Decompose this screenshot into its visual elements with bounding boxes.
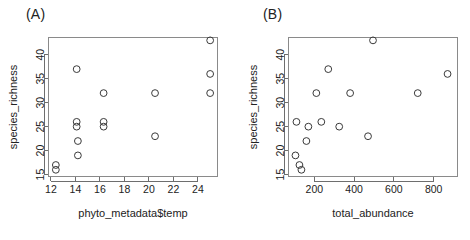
data-point bbox=[292, 152, 299, 159]
data-point bbox=[325, 66, 332, 73]
x-tick-label: 12 bbox=[45, 183, 57, 195]
data-point bbox=[73, 123, 80, 130]
data-point bbox=[74, 138, 81, 145]
data-point bbox=[318, 118, 325, 125]
data-point bbox=[52, 166, 59, 173]
data-point bbox=[347, 90, 354, 97]
panel-a-frame bbox=[49, 38, 218, 177]
panel-a-points bbox=[52, 37, 213, 173]
figure-container: (A) 152025303540 12141618202224 phyto_me… bbox=[0, 0, 470, 240]
data-point bbox=[73, 66, 80, 73]
panel-a-y-axis-title: species_richness bbox=[7, 64, 19, 149]
panel-a-y-axis: 152025303540 bbox=[34, 49, 48, 181]
y-tick-label: 35 bbox=[34, 73, 46, 85]
data-point bbox=[100, 90, 107, 97]
data-point bbox=[74, 152, 81, 159]
data-point bbox=[303, 138, 310, 145]
panel-b-y-axis-title: species_richness bbox=[247, 64, 259, 149]
panel-b-plot: 152025303540 200400600800 total_abundanc… bbox=[235, 0, 470, 240]
data-point bbox=[293, 118, 300, 125]
panel-a-plot: 152025303540 12141618202224 phyto_metada… bbox=[0, 0, 235, 240]
data-point bbox=[152, 133, 159, 140]
x-tick-label: 16 bbox=[94, 183, 106, 195]
y-tick-label: 25 bbox=[34, 121, 46, 133]
x-tick-label: 14 bbox=[70, 183, 82, 195]
x-tick-label: 18 bbox=[119, 183, 131, 195]
y-tick-label: 35 bbox=[274, 73, 286, 85]
data-point bbox=[313, 90, 320, 97]
y-tick-label: 40 bbox=[34, 49, 46, 61]
y-tick-label: 30 bbox=[274, 97, 286, 109]
y-tick-label: 20 bbox=[34, 145, 46, 157]
data-point bbox=[336, 123, 343, 130]
panel-b-x-axis: 200400600800 bbox=[306, 177, 443, 195]
panel-a-x-axis: 12141618202224 bbox=[45, 177, 204, 195]
y-tick-label: 15 bbox=[34, 169, 46, 181]
panel-b: (B) 152025303540 200400600800 total_abun… bbox=[235, 0, 470, 240]
y-tick-label: 25 bbox=[274, 121, 286, 133]
panel-b-points bbox=[292, 37, 451, 173]
data-point bbox=[414, 90, 421, 97]
data-point bbox=[305, 123, 312, 130]
data-point bbox=[207, 71, 214, 78]
x-tick-label: 600 bbox=[385, 183, 403, 195]
x-tick-label: 200 bbox=[306, 183, 324, 195]
panel-b-frame bbox=[289, 38, 458, 177]
panel-a: (A) 152025303540 12141618202224 phyto_me… bbox=[0, 0, 235, 240]
y-tick-label: 15 bbox=[274, 169, 286, 181]
data-point bbox=[444, 71, 451, 78]
data-point bbox=[152, 90, 159, 97]
x-tick-label: 400 bbox=[345, 183, 363, 195]
y-tick-label: 30 bbox=[34, 97, 46, 109]
x-tick-label: 800 bbox=[425, 183, 443, 195]
x-tick-label: 22 bbox=[168, 183, 180, 195]
panel-b-x-axis-title: total_abundance bbox=[332, 207, 413, 219]
data-point bbox=[100, 123, 107, 130]
panel-b-y-axis: 152025303540 bbox=[274, 49, 288, 181]
x-tick-label: 20 bbox=[143, 183, 155, 195]
y-tick-label: 40 bbox=[274, 49, 286, 61]
x-tick-label: 24 bbox=[192, 183, 204, 195]
data-point bbox=[365, 133, 372, 140]
panel-a-x-axis-title: phyto_metadata$temp bbox=[78, 207, 187, 219]
data-point bbox=[207, 90, 214, 97]
y-tick-label: 20 bbox=[274, 145, 286, 157]
